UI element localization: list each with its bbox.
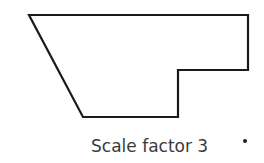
shape-outline <box>29 15 248 117</box>
scale-factor-label: Scale factor 3 <box>91 136 208 156</box>
dot-marker <box>243 139 247 143</box>
